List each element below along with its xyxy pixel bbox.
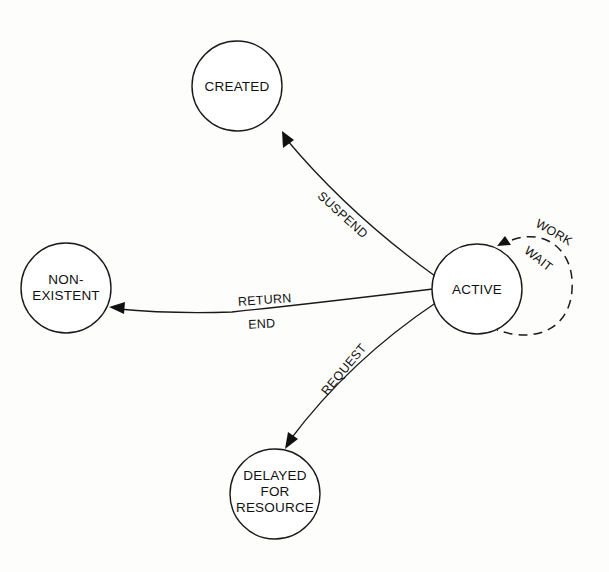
state-label-delayed-line2: FOR (260, 484, 289, 499)
state-label-delayed-line3: RESOURCE (236, 500, 314, 515)
edge-label-suspend: SUSPEND (315, 189, 371, 241)
state-label-active: ACTIVE (452, 282, 502, 297)
state-non-existent: NON- EXISTENT (21, 243, 111, 333)
transition-request: REQUEST (285, 302, 437, 449)
suspend-edge (287, 140, 435, 276)
transition-suspend: SUSPEND (282, 131, 435, 276)
arrowhead-icon (285, 432, 298, 449)
edge-label-work: WORK (533, 216, 575, 248)
transition-return-end: RETURN END (109, 289, 433, 332)
state-label-created: CREATED (205, 79, 270, 94)
edge-label-request: REQUEST (318, 341, 369, 398)
edge-label-end: END (248, 316, 276, 331)
edge-label-wait: WAIT (522, 243, 556, 274)
state-diagram: SUSPEND RETURN END REQUEST WORK WAIT CRE… (0, 0, 609, 572)
state-delayed-for-resource: DELAYED FOR RESOURCE (230, 449, 320, 539)
state-label-non-existent-line1: NON- (48, 272, 83, 287)
state-label-non-existent-line2: EXISTENT (32, 288, 100, 303)
state-active: ACTIVE (432, 244, 522, 334)
state-created: CREATED (192, 41, 282, 131)
arrowhead-icon (497, 236, 511, 246)
arrowhead-icon (109, 302, 125, 314)
request-edge (290, 302, 437, 440)
state-label-delayed-line1: DELAYED (243, 468, 306, 483)
